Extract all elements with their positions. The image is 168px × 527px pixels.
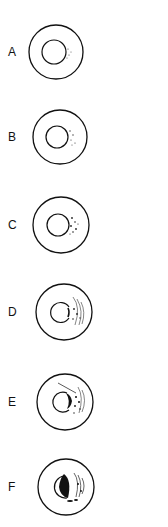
panel-label: B	[8, 130, 16, 144]
panel-b: B	[0, 97, 168, 177]
panel-label: F	[8, 480, 15, 494]
disc-d-icon	[33, 281, 95, 343]
disc-a-icon	[26, 22, 86, 82]
panel-d: D	[0, 272, 168, 352]
disc-c-icon	[30, 194, 92, 256]
disc-e-icon	[34, 371, 96, 433]
panel-f: F	[0, 447, 168, 527]
panel-label: E	[8, 395, 16, 409]
panel-label: A	[8, 45, 16, 59]
disc-f-icon	[34, 456, 98, 518]
panel-e: E	[0, 362, 168, 442]
panel-label: D	[8, 305, 17, 319]
panel-c: C	[0, 185, 168, 265]
panel-label: C	[8, 218, 17, 232]
disc-b-icon	[30, 107, 90, 167]
panel-a: A	[0, 12, 168, 92]
